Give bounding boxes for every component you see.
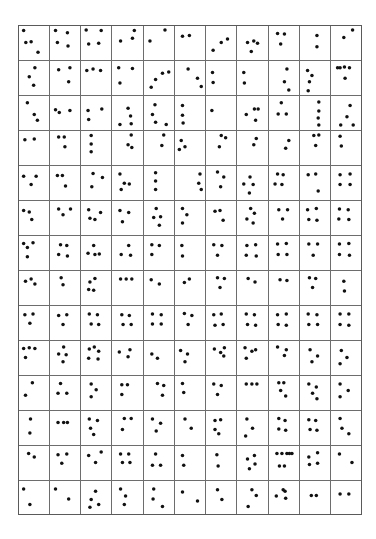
dot-mark [159,464,163,468]
dot-cell [206,480,237,515]
dot-cell [268,270,299,305]
dot-mark [314,419,318,423]
dot-mark [89,498,93,502]
dot-mark [23,138,27,142]
dot-cell [49,445,80,480]
dot-mark [183,312,187,316]
dot-mark [129,133,133,137]
dot-cell [237,165,268,200]
dot-mark [338,323,342,327]
dot-mark [181,207,185,211]
dot-mark [222,354,226,358]
dot-mark [160,144,164,148]
dot-mark [66,44,70,48]
dot-mark [212,382,216,386]
dot-mark [255,254,259,258]
dot-cell [237,60,268,95]
dot-cell [206,305,237,340]
dot-mark [64,353,68,357]
dot-cell [299,480,330,515]
dot-mark [119,452,123,456]
dot-mark [128,461,132,465]
dot-mark [158,282,162,286]
dot-mark [159,322,163,326]
dot-cell [237,445,268,480]
dot-mark [57,314,61,318]
dot-mark [315,34,319,38]
dot-mark [338,452,342,456]
dot-cell [237,130,268,165]
dot-mark [307,418,311,422]
dot-mark [279,389,283,393]
dot-mark [61,323,65,327]
dot-cell [174,25,205,60]
dot-mark [246,41,250,45]
dot-mark [66,421,70,425]
dot-mark [186,352,190,356]
dot-mark [22,209,26,213]
dot-mark [120,383,124,387]
dot-mark [345,115,349,119]
dot-mark [126,383,130,387]
dot-mark [216,254,220,257]
dot-mark [316,116,320,120]
dot-mark [278,278,282,282]
dot-cell [112,25,143,60]
dot-mark [129,114,133,118]
dot-mark [131,37,135,41]
dot-mark [93,345,97,349]
dot-cell [143,235,174,270]
dot-cell [174,270,205,305]
dot-mark [92,244,96,248]
dot-mark [255,382,259,386]
dot-mark [254,348,258,352]
dot-mark [36,118,40,122]
dot-cell [143,270,174,305]
dot-mark [181,114,185,118]
dot-mark [311,286,315,290]
dot-mark [183,417,187,421]
dot-mark [127,211,131,215]
dot-mark [211,81,215,85]
dot-mark [315,45,319,49]
dot-mark [211,71,215,75]
dot-mark [121,461,125,465]
dot-mark [199,85,203,89]
dot-mark [89,426,93,430]
dot-cell [206,95,237,130]
dot-mark [314,172,318,176]
dot-cell [206,445,237,480]
dot-cell [174,165,205,200]
dot-mark [87,454,91,458]
dot-mark [275,452,279,456]
dot-mark [316,461,320,465]
dot-mark [92,433,96,437]
dot-mark [164,123,168,127]
dot-mark [65,452,69,456]
dot-mark [338,183,342,187]
dot-cell [268,165,299,200]
dot-mark [189,426,193,430]
dot-cell [112,480,143,515]
dot-cell [206,200,237,235]
dot-mark [246,505,250,509]
dot-mark [96,313,100,317]
dot-cell [49,95,80,130]
dot-mark [316,354,320,358]
dot-mark [338,66,342,70]
dot-mark [127,452,131,456]
dot-cell [299,270,330,305]
dot-mark [64,184,68,188]
dot-mark [61,174,65,178]
dot-mark [243,346,247,350]
dot-cell [174,235,205,270]
dot-mark [93,253,97,257]
dot-mark [343,65,347,69]
dot-mark [66,254,70,258]
dot-mark [118,123,122,127]
dot-mark [24,356,28,360]
dot-mark [284,496,288,500]
dot-mark [181,221,185,225]
dot-mark [248,175,252,179]
dot-mark [285,242,289,246]
